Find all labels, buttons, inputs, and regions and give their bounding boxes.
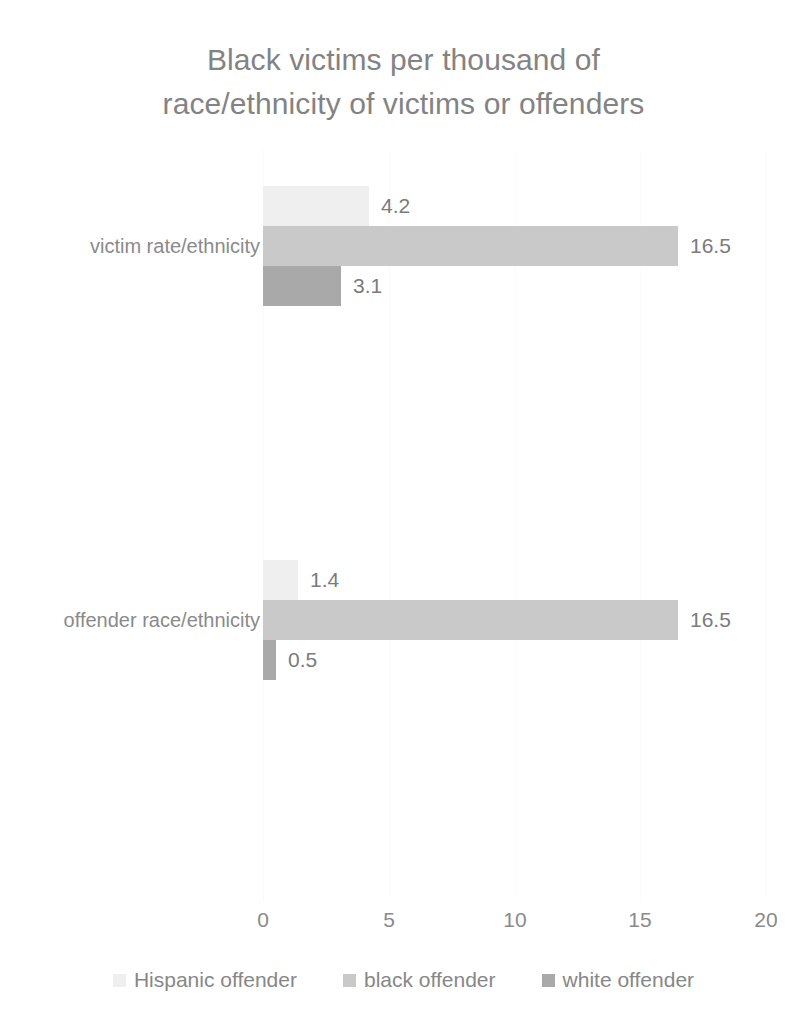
bar-hispanic-offender-offender[interactable] <box>263 560 298 600</box>
legend-label: black offender <box>364 967 496 993</box>
bar-value-label: 16.5 <box>690 608 731 632</box>
bar-value-label: 3.1 <box>353 274 382 298</box>
legend-swatch-icon <box>542 974 555 987</box>
chart-title-line-1: Black victims per thousand of <box>60 38 747 82</box>
bar-chart: Black victims per thousand of race/ethni… <box>0 0 807 1022</box>
legend-item-black-offender[interactable]: black offender <box>343 967 496 993</box>
x-tick-label: 5 <box>359 906 419 934</box>
x-tick-label: 15 <box>610 906 670 934</box>
bar-value-label: 0.5 <box>288 648 317 672</box>
bar-white-offender-victim[interactable] <box>263 266 341 306</box>
bar-hispanic-offender-victim[interactable] <box>263 186 369 226</box>
bar-white-offender-offender[interactable] <box>263 640 276 680</box>
chart-title: Black victims per thousand of race/ethni… <box>60 38 747 126</box>
bar-value-label: 16.5 <box>690 234 731 258</box>
legend-label: white offender <box>563 967 695 993</box>
legend-label: Hispanic offender <box>134 967 297 993</box>
bar-black-offender-victim[interactable] <box>263 226 678 266</box>
legend-item-hispanic-offender[interactable]: Hispanic offender <box>113 967 297 993</box>
bar-black-offender-offender[interactable] <box>263 600 678 640</box>
chart-legend: Hispanic offender black offender white o… <box>0 962 807 998</box>
plot-area: 4.2 16.5 3.1 1.4 16.5 0.5 <box>263 150 766 902</box>
bar-value-label: 1.4 <box>310 568 339 592</box>
x-tick-label: 10 <box>485 906 545 934</box>
legend-swatch-icon <box>113 974 126 987</box>
x-axis: 0 5 10 15 20 <box>263 906 766 940</box>
x-tick-label: 0 <box>233 906 293 934</box>
chart-title-line-2: race/ethnicity of victims or offenders <box>60 82 747 126</box>
legend-swatch-icon <box>343 974 356 987</box>
bar-value-label: 4.2 <box>381 194 410 218</box>
bar-group-offender-race-ethnicity: 1.4 16.5 0.5 <box>263 560 766 680</box>
legend-item-white-offender[interactable]: white offender <box>542 967 695 993</box>
category-label-offender-race-ethnicity: offender race/ethnicity <box>10 608 260 632</box>
category-label-victim-rate-ethnicity: victim rate/ethnicity <box>10 234 260 258</box>
x-tick-label: 20 <box>736 906 796 934</box>
bar-group-victim-rate-ethnicity: 4.2 16.5 3.1 <box>263 186 766 306</box>
